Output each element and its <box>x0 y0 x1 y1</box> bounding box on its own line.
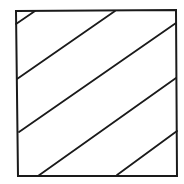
hatched-square-diagram <box>0 0 184 184</box>
